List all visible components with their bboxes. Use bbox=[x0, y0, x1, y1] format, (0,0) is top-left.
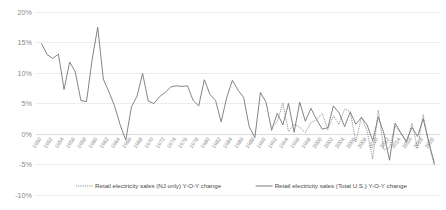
x-axis-tick-label: 1954 bbox=[53, 136, 65, 149]
x-axis-tick-label: 1980 bbox=[199, 136, 211, 149]
x-axis-tick-label: 1990 bbox=[255, 136, 267, 149]
y-axis-tick-labels: 20%15%10%5%0%-5%-10% bbox=[15, 8, 32, 200]
y-axis-tick-label: 0% bbox=[22, 130, 33, 139]
x-axis-tick-label: 1994 bbox=[278, 136, 290, 149]
legend-item-label[interactable]: Retail electricity sales (NJ only) Y-O-Y… bbox=[95, 182, 222, 189]
x-axis-tick-label: 1968 bbox=[132, 136, 144, 149]
x-axis-tick-label: 2008 bbox=[356, 136, 368, 149]
y-axis-tick-label: 5% bbox=[22, 99, 33, 108]
x-axis-tick-label: 1962 bbox=[98, 136, 110, 149]
x-axis-tick-label: 1986 bbox=[233, 136, 245, 149]
x-axis-tick-label: 2016 bbox=[401, 136, 413, 149]
line-chart: 20%15%10%5%0%-5%-10% 1950195219541956195… bbox=[0, 0, 446, 210]
x-axis-tick-label: 1992 bbox=[266, 136, 278, 149]
chart-legend: Retail electricity sales (NJ only) Y-O-Y… bbox=[76, 182, 407, 189]
legend-item-label[interactable]: Retail electricity sales (Total U.S.) Y-… bbox=[275, 182, 408, 189]
x-axis-tick-label: 1958 bbox=[76, 136, 88, 149]
x-axis-tick-label: 2012 bbox=[379, 136, 391, 149]
x-axis-tick-label: 1956 bbox=[64, 136, 76, 149]
x-axis-tick-label: 1952 bbox=[42, 136, 54, 149]
x-axis-tick-label: 1978 bbox=[188, 136, 200, 149]
x-axis-tick-label: 1984 bbox=[221, 136, 233, 149]
x-axis-tick-label: 1972 bbox=[154, 136, 166, 149]
x-axis-tick-label: 2000 bbox=[311, 136, 323, 149]
chart-container: 20%15%10%5%0%-5%-10% 1950195219541956195… bbox=[0, 0, 446, 210]
x-axis-tick-label: 1982 bbox=[210, 136, 222, 149]
x-axis-tick-label: 1974 bbox=[165, 136, 177, 149]
x-axis-tick-label: 1998 bbox=[300, 136, 312, 149]
x-axis-tick-label: 2004 bbox=[334, 136, 346, 149]
x-axis-tick-label: 1976 bbox=[177, 136, 189, 149]
x-axis-tick-label: 2002 bbox=[322, 136, 334, 149]
y-axis-tick-label: 20% bbox=[18, 8, 33, 17]
x-axis-tick-label: 1964 bbox=[109, 136, 121, 149]
x-axis-tick-label: 1950 bbox=[31, 136, 43, 149]
y-axis-tick-label: -5% bbox=[19, 160, 32, 169]
x-axis-tick-label: 1970 bbox=[143, 136, 155, 149]
x-axis-tick-label: 1988 bbox=[244, 136, 256, 149]
x-axis-tick-label: 1960 bbox=[87, 136, 99, 149]
y-axis-tick-label: 15% bbox=[18, 38, 33, 47]
y-axis-tick-label: 10% bbox=[18, 69, 33, 78]
x-axis-tick-label: 1996 bbox=[289, 136, 301, 149]
y-axis-tick-label: -10% bbox=[15, 191, 32, 200]
gridlines bbox=[36, 12, 440, 195]
